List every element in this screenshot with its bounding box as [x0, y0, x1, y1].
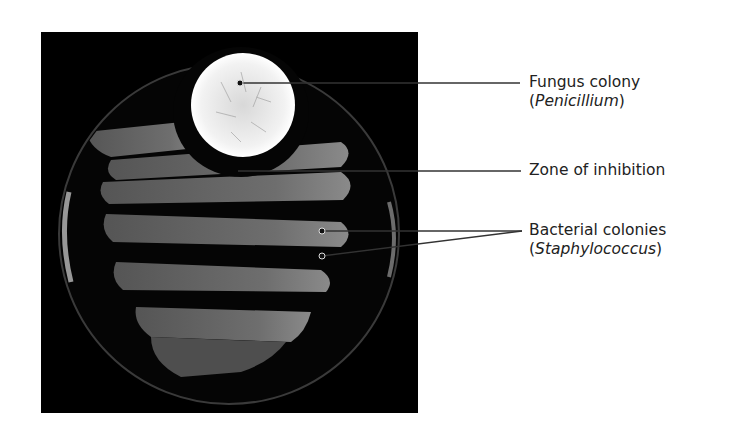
label-zone-title: Zone of inhibition — [529, 161, 665, 180]
pointer-dot-bacteria-2 — [319, 253, 325, 259]
label-zone-of-inhibition: Zone of inhibition — [529, 161, 665, 180]
label-bacteria-species: (Staphylococcus) — [529, 240, 666, 259]
label-bacteria-title: Bacterial colonies — [529, 221, 666, 240]
pointer-dot-fungus — [237, 80, 243, 86]
label-fungus-title: Fungus colony — [529, 73, 640, 92]
label-fungus-colony: Fungus colony (Penicillium) — [529, 73, 640, 111]
label-fungus-species: (Penicillium) — [529, 92, 640, 111]
leader-line-bacteria-2 — [322, 231, 522, 256]
leader-lines — [0, 0, 731, 438]
pointer-dot-bacteria-1 — [319, 228, 325, 234]
label-bacterial-colonies: Bacterial colonies (Staphylococcus) — [529, 221, 666, 259]
